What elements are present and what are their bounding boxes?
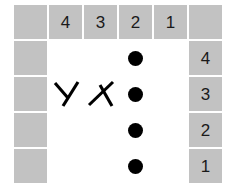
puzzle-cell-r2-c3[interactable] xyxy=(119,77,152,111)
puzzle-cell-r2-c2[interactable] xyxy=(84,77,117,111)
header-cell-empty xyxy=(14,5,47,39)
puzzle-cell-r3-c1[interactable] xyxy=(49,113,82,147)
header-cell-empty xyxy=(189,5,222,39)
puzzle-cell-r3-c2[interactable] xyxy=(84,113,117,147)
puzzle-cell-r4-c2[interactable] xyxy=(84,149,117,183)
header-cell-4: 4 xyxy=(189,41,222,75)
puzzle-cell-r1-c4[interactable] xyxy=(154,41,187,75)
puzzle-cell-r4-c3[interactable] xyxy=(119,149,152,183)
puzzle-cell-r3-c4[interactable] xyxy=(154,113,187,147)
puzzle-grid-container: 43214321 xyxy=(0,0,231,183)
header-label: 4 xyxy=(61,14,70,31)
filled-dot-icon xyxy=(128,159,143,174)
header-cell-4: 4 xyxy=(49,5,82,39)
header-cell-empty xyxy=(14,41,47,75)
header-cell-1: 1 xyxy=(189,149,222,183)
filled-dot-icon xyxy=(128,123,143,138)
header-label: 1 xyxy=(166,14,175,31)
header-label: 4 xyxy=(201,50,210,67)
header-cell-2: 2 xyxy=(119,5,152,39)
puzzle-cell-r4-c4[interactable] xyxy=(154,149,187,183)
filled-dot-icon xyxy=(128,51,143,66)
puzzle-cell-r1-c2[interactable] xyxy=(84,41,117,75)
header-cell-empty xyxy=(14,77,47,111)
x-mark-icon xyxy=(86,79,116,109)
puzzle-cell-r3-c3[interactable] xyxy=(119,113,152,147)
header-label: 3 xyxy=(96,14,105,31)
puzzle-cell-r2-c4[interactable] xyxy=(154,77,187,111)
header-cell-3: 3 xyxy=(189,77,222,111)
header-cell-empty xyxy=(14,113,47,147)
puzzle-cell-r4-c1[interactable] xyxy=(49,149,82,183)
puzzle-cell-r1-c1[interactable] xyxy=(49,41,82,75)
filled-dot-icon xyxy=(128,87,143,102)
puzzle-grid: 43214321 xyxy=(14,5,222,183)
puzzle-cell-r1-c3[interactable] xyxy=(119,41,152,75)
header-cell-3: 3 xyxy=(84,5,117,39)
puzzle-cell-r2-c1[interactable] xyxy=(49,77,82,111)
header-label: 2 xyxy=(201,122,210,139)
header-cell-1: 1 xyxy=(154,5,187,39)
header-label: 2 xyxy=(131,14,140,31)
header-cell-empty xyxy=(14,149,47,183)
header-cell-2: 2 xyxy=(189,113,222,147)
x-mark-icon xyxy=(51,79,81,109)
header-label: 1 xyxy=(201,158,210,175)
header-label: 3 xyxy=(201,86,210,103)
